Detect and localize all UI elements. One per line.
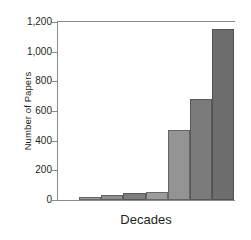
x-axis-title: Decades — [57, 212, 235, 228]
y-axis-tick-label: 400 — [26, 136, 52, 146]
y-axis-tick-label: 1,200 — [26, 17, 52, 27]
bar — [146, 192, 168, 200]
bar-chart-figure: Number of Papers 02004006008001,0001,200… — [0, 0, 251, 240]
bar — [190, 99, 212, 200]
bar-series — [57, 22, 234, 200]
y-axis-tick-label: 600 — [26, 106, 52, 116]
y-axis-tick-labels: 02004006008001,0001,200 — [26, 0, 52, 240]
bar — [168, 130, 190, 200]
bar — [123, 193, 145, 200]
y-axis-tick-label: 1,000 — [26, 47, 52, 57]
y-axis-tick-label: 800 — [26, 76, 52, 86]
y-axis-tick-label: 200 — [26, 165, 52, 175]
bar — [101, 195, 123, 200]
y-axis-tick-label: 0 — [26, 195, 52, 205]
bar — [79, 197, 101, 200]
x-axis-line — [57, 200, 235, 201]
bar — [212, 29, 234, 200]
